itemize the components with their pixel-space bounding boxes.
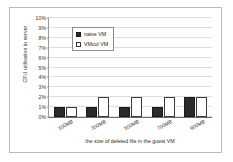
bar-naive [119, 107, 130, 117]
legend-item-vmcul: VMcul VM [76, 41, 108, 47]
x-axis-title: the size of deleted file in the guest VM [48, 138, 212, 144]
bar-group [152, 18, 175, 117]
y-tick-label: 6% [39, 55, 47, 61]
y-tick-label: 9% [39, 25, 47, 31]
bar-naive [86, 107, 97, 117]
bar-group [184, 18, 207, 117]
legend-label-naive: naive VM [84, 31, 106, 37]
bar-naive [184, 97, 195, 117]
x-axis-tick-labels: 100MB300MB500MB700MB900MB [48, 120, 212, 140]
bar-vmcul [196, 97, 207, 117]
chart-legend: naive VM VMcul VM [72, 27, 114, 51]
bar-vmcul [98, 97, 109, 117]
bar-vmcul [131, 97, 142, 117]
bar-naive [54, 107, 65, 117]
bar-vmcul [164, 97, 175, 117]
y-tick-label: 2% [39, 94, 47, 100]
legend-label-vmcul: VMcul VM [84, 41, 108, 47]
bar-naive [152, 107, 163, 117]
plot-area: 0%1%2%3%4%5%6%7%8%9%10% naive VM VMcul V… [48, 18, 212, 118]
y-tick-label: 1% [39, 104, 47, 110]
y-tick-label: 0% [39, 114, 47, 120]
legend-swatch-naive [76, 32, 81, 37]
y-tick-label: 8% [39, 35, 47, 41]
y-axis-title: CPU utilisation in server [22, 18, 28, 90]
y-tick-label: 5% [39, 65, 47, 71]
y-tick-label: 3% [39, 84, 47, 90]
legend-swatch-vmcul [76, 42, 81, 47]
y-tick-label: 10% [36, 15, 46, 21]
chart-figure: CPU utilisation in server 0%1%2%3%4%5%6%… [9, 7, 222, 153]
y-tick-label: 7% [39, 45, 47, 51]
bar-group [119, 18, 142, 117]
y-tick-label: 4% [39, 74, 47, 80]
legend-item-naive: naive VM [76, 31, 108, 37]
